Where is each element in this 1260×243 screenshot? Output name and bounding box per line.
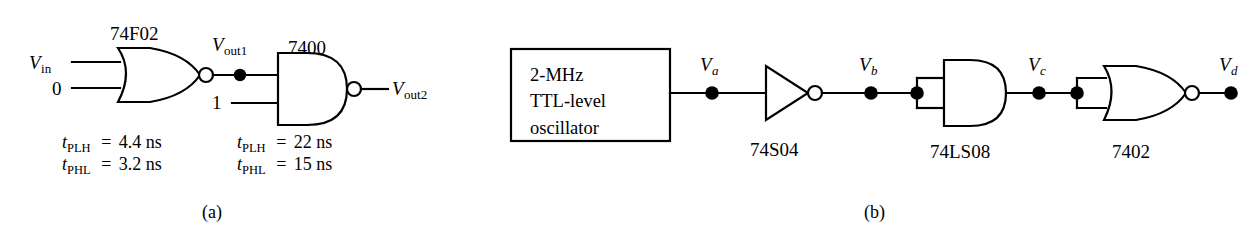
tplh-equals-7400: = [276,132,286,152]
timing-7400-tplh: tPLH = 22 ns [237,133,332,154]
terminal-dot-vd [1224,86,1238,100]
vout1-subscript: out1 [224,43,247,58]
oscillator-line-1: 2-MHz [530,62,606,88]
chip-label-7400: 7400 [288,38,326,57]
tphl-subscript: PHL [67,163,91,177]
vd-symbol: V [1219,54,1231,75]
vin-symbol: V [29,52,41,73]
oscillator-line-2: TTL-level [530,88,606,114]
junction-dot-nor-input [1070,86,1084,100]
va-symbol: V [700,54,712,75]
tphl-equals: = [101,154,111,174]
vout1-symbol: V [212,34,224,55]
junction-dot-vc [1032,86,1046,100]
vout2-subscript: out2 [404,87,427,102]
subfigure-caption-a: (a) [202,203,222,221]
junction-dot-vout1 [234,69,246,81]
tphl-equals-7400: = [276,154,286,174]
tplh-value-7400: 22 ns [294,132,333,152]
inverter-74s04-bubble [808,86,822,100]
nand-gate-7400-bubble [347,82,361,96]
va-subscript: a [712,63,719,78]
subfigure-caption-b: (b) [864,203,885,221]
input-constant-zero: 0 [52,79,62,98]
tplh-equals: = [101,132,111,152]
vd-subscript: d [1231,63,1238,78]
tphl-value-7400: 15 ns [294,154,333,174]
junction-dots [234,69,1238,100]
chip-label-7402: 7402 [1112,142,1150,161]
signal-label-vb: Vb [859,55,878,77]
signal-label-vin: Vin [29,53,51,75]
signal-label-va: Va [700,55,719,77]
tplh-subscript: PLH [67,141,91,155]
nand-gate-7400-body [278,53,347,125]
junction-dot-va [705,86,719,100]
tplh-value-74f02: 4.4 ns [119,132,162,152]
signal-label-vout2: Vout2 [392,79,427,101]
vin-subscript: in [41,61,51,76]
inverter-74s04-body [766,66,808,120]
chip-label-74f02: 74F02 [110,24,159,43]
junction-dot-vb [864,86,878,100]
oscillator-box-text: 2-MHz TTL-level oscillator [530,62,606,141]
and-gate-74ls08-body [944,60,1006,126]
tphl-subscript-7400: PHL [242,163,266,177]
vb-subscript: b [871,63,878,78]
junction-dot-and-input [910,86,924,100]
nor-gate-74f02-body [118,48,200,102]
nor-gate-7402-body [1104,66,1186,120]
timing-74f02-tplh: tPLH = 4.4 ns [62,133,162,154]
tphl-value-74f02: 3.2 ns [119,154,162,174]
signal-label-vc: Vc [1028,55,1046,77]
chip-label-74s04: 74S04 [750,140,799,159]
timing-7400-tphl: tPHL = 15 ns [237,155,332,176]
vb-symbol: V [859,54,871,75]
circuit-schematic [0,0,1260,243]
signal-label-vout1: Vout1 [212,35,247,57]
tplh-subscript-7400: PLH [242,141,266,155]
oscillator-line-3: oscillator [530,115,606,141]
vout2-symbol: V [392,78,404,99]
figure-canvas: 74F02 Vin 0 Vout1 7400 1 Vout2 tPLH = 4.… [0,0,1260,243]
timing-74f02-tphl: tPHL = 3.2 ns [62,155,162,176]
vc-subscript: c [1040,63,1046,78]
nor-gate-7402-bubble [1185,86,1199,100]
signal-label-vd: Vd [1219,55,1238,77]
chip-label-74ls08: 74LS08 [930,142,990,161]
nor-gate-74f02-bubble [199,68,213,82]
input-constant-one: 1 [212,93,222,112]
vc-symbol: V [1028,54,1040,75]
